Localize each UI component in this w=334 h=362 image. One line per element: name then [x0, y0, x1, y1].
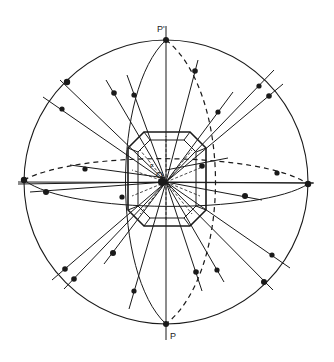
pole-dot	[111, 90, 117, 96]
pole-dot	[199, 163, 205, 169]
pole-dot	[131, 288, 136, 293]
diagram-canvas: P' P O F	[0, 0, 334, 362]
pole-dot	[242, 193, 248, 199]
pole-dot	[59, 106, 64, 111]
pole-dot	[215, 109, 220, 114]
pole-dot	[119, 194, 124, 199]
pole-dot	[110, 250, 116, 256]
zone-ray	[52, 182, 166, 280]
octagon-edge-link	[144, 218, 150, 226]
pole-dot	[21, 177, 27, 183]
pole-dot	[256, 83, 261, 88]
pole-dot	[163, 37, 169, 43]
pole-dot	[62, 266, 68, 272]
label-center-small: F	[150, 163, 154, 169]
stereographic-diagram: P' P O F	[0, 0, 334, 362]
pole-dot	[266, 93, 272, 99]
label-bottom-pole: P	[170, 331, 176, 341]
pole-dot	[192, 68, 198, 74]
pole-dot	[214, 267, 219, 272]
pole-dot	[274, 170, 279, 175]
pole-dot	[71, 276, 77, 282]
pole-dot	[163, 321, 169, 327]
pole-dot	[261, 279, 267, 285]
pole-dot	[82, 166, 87, 171]
zone-ray	[166, 84, 283, 182]
octagon-edge-link	[184, 132, 190, 140]
zone-ray	[127, 75, 166, 182]
label-center: O	[156, 170, 163, 180]
zone-ray	[166, 60, 198, 182]
pole-dot	[269, 252, 274, 257]
octagon-edge-link	[128, 148, 138, 152]
pole-dot	[193, 269, 199, 275]
pole-dot	[305, 181, 311, 187]
pole-dot	[43, 189, 49, 195]
label-top-pole: P'	[157, 24, 165, 34]
pole-dot	[131, 92, 136, 97]
pole-dot	[64, 79, 70, 85]
